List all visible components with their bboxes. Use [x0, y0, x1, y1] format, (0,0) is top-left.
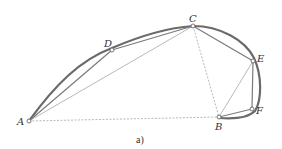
chord-E-B	[219, 61, 253, 117]
points	[27, 24, 255, 123]
point-A	[27, 119, 31, 123]
chords	[29, 26, 253, 121]
label-D: D	[103, 38, 112, 49]
thin-chords	[29, 26, 253, 121]
chord-E-F	[252, 61, 253, 109]
label-C: C	[189, 13, 197, 24]
point-F	[250, 107, 254, 111]
point-E	[251, 59, 255, 63]
label-A: A	[16, 116, 24, 127]
point-C	[191, 24, 195, 28]
chord-D-C	[112, 26, 193, 50]
chord-A-D	[29, 50, 112, 121]
label-F: F	[255, 105, 264, 116]
dashed-segments	[29, 26, 219, 121]
point-B	[217, 115, 221, 119]
dashed-C-B	[193, 26, 219, 117]
polygon-arc-diagram: A D C E F B a)	[0, 0, 282, 149]
label-E: E	[256, 53, 265, 64]
figure-caption: a)	[136, 134, 144, 146]
dashed-A-B	[29, 117, 219, 121]
label-B: B	[214, 121, 222, 132]
